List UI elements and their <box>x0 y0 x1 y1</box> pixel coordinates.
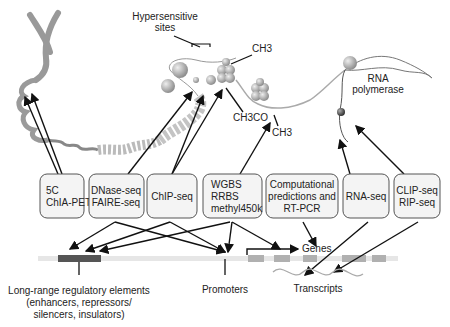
method-box-computational: Computational predictions and RT-PCR <box>266 174 338 218</box>
regulatory-element-bar <box>58 255 101 262</box>
methyl-ch3-top-label: CH3 <box>231 43 272 64</box>
chromosome-illustration <box>19 13 98 150</box>
exon-3 <box>303 255 317 262</box>
svg-text:RNA: RNA <box>367 73 388 84</box>
svg-text:RNA-seq: RNA-seq <box>346 191 387 202</box>
upward-arrows <box>25 90 404 174</box>
svg-text:ChIA-PET: ChIA-PET <box>46 197 91 208</box>
dna-rna-polymerase <box>337 56 432 142</box>
svg-text:CH3CO: CH3CO <box>233 112 268 123</box>
svg-text:5C: 5C <box>46 185 59 196</box>
svg-text:CLIP-seq: CLIP-seq <box>396 185 438 196</box>
exon-2 <box>274 255 290 262</box>
downward-arrows <box>70 222 418 275</box>
svg-text:RIP-seq: RIP-seq <box>399 197 435 208</box>
method-box-rnaseq: RNA-seq <box>343 174 389 218</box>
svg-text:DNase-seq: DNase-seq <box>91 185 141 196</box>
svg-text:polymerase: polymerase <box>352 84 404 95</box>
chromatin-fiber <box>98 58 345 150</box>
hypersensitive-sites-label: Hypersensitive sites <box>132 11 210 47</box>
svg-text:CH3: CH3 <box>252 43 272 54</box>
method-box-5c: 5C ChIA-PET <box>40 174 91 218</box>
svg-text:(enhancers, repressors/: (enhancers, repressors/ <box>26 297 132 308</box>
svg-text:WGBS: WGBS <box>211 179 242 190</box>
genes-label: Genes <box>302 243 331 254</box>
method-box-chip: ChIP-seq <box>147 174 197 218</box>
long-range-regulatory-label: Long-range regulatory elements (enhancer… <box>8 285 150 320</box>
exon-4 <box>342 255 366 262</box>
genome-track <box>38 249 398 275</box>
exon-1 <box>248 255 264 262</box>
epigenomics-methods-diagram: Hypersensitive sites CH3 CH3CO CH3 RNA p… <box>0 0 450 327</box>
svg-text:Hypersensitive: Hypersensitive <box>132 11 198 22</box>
svg-text:sites: sites <box>155 22 176 33</box>
svg-text:silencers, insulators): silencers, insulators) <box>33 309 124 320</box>
svg-text:Long-range regulatory elements: Long-range regulatory elements <box>8 285 150 296</box>
svg-text:FAIRE-seq: FAIRE-seq <box>92 197 140 208</box>
svg-text:ChIP-seq: ChIP-seq <box>151 191 193 202</box>
svg-text:predictions and: predictions and <box>268 191 336 202</box>
method-box-clip: CLIP-seq RIP-seq <box>394 174 440 218</box>
method-box-wgbs: WGBS RRBS methyl450k <box>203 174 263 218</box>
svg-text:RRBS: RRBS <box>211 191 239 202</box>
promoters-label: Promoters <box>202 284 248 295</box>
svg-text:CH3: CH3 <box>272 127 292 138</box>
svg-text:methyl450k: methyl450k <box>211 203 263 214</box>
transcripts-label: Transcripts <box>293 283 342 294</box>
methyl-ch3-bottom-label: CH3 <box>272 115 292 138</box>
rna-polymerase-label: RNA polymerase <box>352 73 404 95</box>
method-box-dnase: DNase-seq FAIRE-seq <box>89 174 144 218</box>
transcript-wave <box>273 269 363 276</box>
svg-text:Computational: Computational <box>270 179 334 190</box>
exon-5 <box>372 255 386 262</box>
svg-text:RT-PCR: RT-PCR <box>283 203 320 214</box>
